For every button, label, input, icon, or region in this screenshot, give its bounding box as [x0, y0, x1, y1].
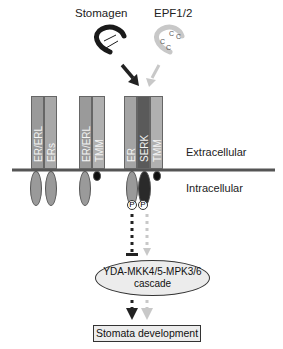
kinase-domain — [79, 171, 91, 206]
receptor-er: ER — [124, 96, 137, 169]
svg-text:C: C — [166, 44, 171, 51]
phosphate-icon: P — [138, 200, 148, 210]
receptor-er-erl-2: ER/ERL — [79, 96, 92, 169]
epf-peptide-icon: C C C C — [156, 27, 182, 52]
stomagen-peptide-icon — [96, 27, 124, 52]
receptor-tmm-1: TMM — [92, 96, 105, 169]
receptor-tmm-2: TMM — [150, 96, 163, 169]
receptor-serk: SERK — [137, 96, 150, 169]
intracellular-label: Intracellular — [186, 182, 243, 194]
stomagen-arrow-icon — [122, 65, 139, 86]
svg-text:C: C — [169, 30, 174, 37]
epf-arrow-icon — [146, 65, 159, 87]
mapk-cascade-node: YDA-MKK4/5-MPK3/6 cascade — [95, 260, 210, 296]
cascade-line-1: YDA-MKK4/5-MPK3/6 — [96, 266, 209, 278]
svg-text:C: C — [176, 33, 181, 40]
cascade-line-2: cascade — [96, 278, 209, 290]
phosphate-icon: P — [127, 200, 137, 210]
extracellular-label: Extracellular — [186, 146, 247, 158]
receptor-er-erl-1: ER/ERL — [31, 96, 44, 169]
kinase-domain — [45, 171, 57, 206]
tmm-cytoplasmic-tail — [93, 171, 101, 181]
outcome-box: Stomata development — [93, 325, 201, 342]
kinase-domain — [30, 171, 42, 206]
svg-text:C: C — [160, 38, 165, 45]
tmm-cytoplasmic-tail — [153, 171, 161, 181]
receptor-ers: ERs — [44, 96, 57, 169]
